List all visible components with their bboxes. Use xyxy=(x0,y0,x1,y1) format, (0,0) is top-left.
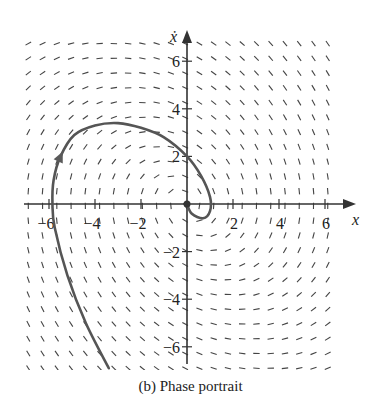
field-dash xyxy=(313,159,315,165)
field-dash xyxy=(240,248,245,252)
field-dash xyxy=(268,353,274,354)
field-dash xyxy=(154,322,159,326)
field-dash xyxy=(197,71,202,74)
field-dash xyxy=(127,188,128,194)
y-axis-arrow-icon xyxy=(182,30,192,43)
field-dash xyxy=(198,188,201,193)
field-dash xyxy=(168,87,174,89)
field-dash xyxy=(240,71,245,75)
field-dash xyxy=(42,247,44,253)
field-dash xyxy=(327,173,328,179)
field-dash xyxy=(326,277,330,282)
field-dash xyxy=(127,174,130,180)
field-dash xyxy=(27,144,29,150)
field-dash xyxy=(97,366,101,370)
field-dash xyxy=(297,41,301,46)
field-dash xyxy=(55,292,58,298)
field-dash xyxy=(240,86,244,91)
field-dash xyxy=(211,86,216,90)
field-dash xyxy=(56,247,58,253)
y-tick-label: −6 xyxy=(163,339,180,356)
field-dash xyxy=(212,159,216,164)
field-dash xyxy=(126,351,131,355)
field-dash xyxy=(41,306,44,312)
field-dash xyxy=(139,43,145,44)
field-dash xyxy=(168,189,173,193)
field-dash xyxy=(40,57,46,60)
field-dash xyxy=(168,72,174,74)
field-dash xyxy=(70,159,72,165)
field-dash xyxy=(112,292,116,297)
field-dash xyxy=(196,367,202,370)
field-dash xyxy=(71,217,72,223)
field-dash xyxy=(41,129,44,134)
x-tick-label: −4 xyxy=(83,215,100,232)
field-dash xyxy=(56,262,58,268)
field-dash xyxy=(254,56,258,61)
field-dash xyxy=(326,100,329,106)
field-dash xyxy=(42,232,43,238)
field-dash xyxy=(126,336,131,340)
field-dash xyxy=(57,188,58,194)
field-dash xyxy=(140,366,145,370)
field-dash xyxy=(311,337,317,340)
field-dash xyxy=(112,262,115,268)
field-dash xyxy=(56,277,58,283)
field-dash xyxy=(26,100,30,105)
field-dash xyxy=(82,43,88,44)
field-dash xyxy=(269,85,273,90)
field-dash xyxy=(268,263,273,267)
field-dash xyxy=(310,367,316,369)
field-dash xyxy=(297,277,301,282)
field-dash xyxy=(327,188,328,194)
field-dash xyxy=(211,308,217,310)
field-dash xyxy=(168,176,174,177)
field-dash xyxy=(98,336,102,341)
field-dash xyxy=(27,277,29,283)
field-dash xyxy=(27,306,30,312)
field-dash xyxy=(69,336,73,341)
field-dash xyxy=(126,366,131,370)
field-dash xyxy=(96,58,102,59)
field-dash xyxy=(84,247,86,253)
field-dash xyxy=(55,351,59,356)
field-dash xyxy=(239,264,245,267)
field-dash xyxy=(239,338,245,339)
field-dash xyxy=(282,353,288,354)
field-dash xyxy=(139,132,145,133)
field-dash xyxy=(225,56,230,60)
field-dash xyxy=(154,337,159,341)
field-dash xyxy=(26,86,31,90)
field-dash xyxy=(27,366,30,370)
field-dash xyxy=(69,366,73,370)
field-dash xyxy=(26,71,31,75)
field-dash xyxy=(126,292,130,297)
field-dash xyxy=(312,100,315,106)
field-dash xyxy=(270,188,271,194)
field-dash xyxy=(84,262,87,268)
field-dash xyxy=(41,351,44,356)
field-dash xyxy=(253,294,259,296)
field-dash xyxy=(154,102,160,103)
field-dash xyxy=(28,173,29,179)
field-dash xyxy=(140,351,145,355)
field-dash xyxy=(140,307,145,311)
field-dash xyxy=(41,277,43,283)
field-dash xyxy=(70,173,72,179)
field-dash xyxy=(84,307,87,312)
field-dash xyxy=(298,144,300,150)
field-dash xyxy=(326,70,329,75)
field-dash xyxy=(211,279,217,280)
field-dash xyxy=(226,71,231,75)
field-dash xyxy=(312,277,316,282)
field-dash xyxy=(168,278,173,282)
field-dash xyxy=(240,115,244,120)
field-dash xyxy=(97,130,102,134)
field-dash xyxy=(297,56,301,61)
field-dash xyxy=(225,353,231,354)
field-dash xyxy=(83,101,89,104)
field-dash xyxy=(26,57,31,60)
field-dash xyxy=(254,100,258,105)
field-dash xyxy=(313,173,314,179)
field-dash xyxy=(325,352,331,355)
